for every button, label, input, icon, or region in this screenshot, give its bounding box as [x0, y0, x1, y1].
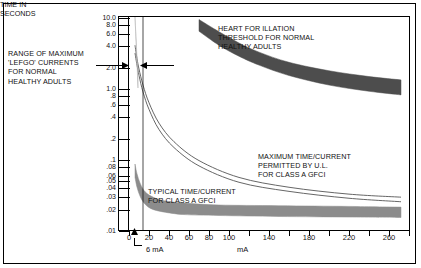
- y-axis-tick-label: .04: [106, 184, 116, 191]
- six-ma-leader-vertical: [134, 238, 135, 245]
- x-axis-tick-label: 220: [343, 233, 356, 242]
- annotation-typical: TYPICAL TIME/CURRENT FOR CLASS A GFCI: [148, 187, 236, 205]
- six-ma-leader-horizontal: [134, 245, 142, 246]
- y-axis-tick-label: .4: [110, 113, 116, 120]
- y-axis-tick-label: .01: [106, 227, 116, 234]
- y-axis-tick-label: 4.0: [106, 42, 116, 49]
- y-axis-tick-label: .2: [110, 134, 116, 141]
- y-axis-tick-label: .8: [110, 91, 116, 98]
- annotation-letgo: RANGE OF MAXIMUM 'LEFGO' CURRENTS FOR NO…: [8, 49, 84, 86]
- letgo-arrow-right-icon: [140, 61, 174, 70]
- x-axis-tick-label: 80: [205, 233, 213, 242]
- x-axis-tick-label: 40: [165, 233, 173, 242]
- six-ma-label: 6 mA: [146, 245, 164, 254]
- y-axis-tick-label: .03: [106, 193, 116, 200]
- y-axis-tick-label: 8.0: [106, 20, 116, 27]
- x-axis-tick-label: 180: [303, 233, 316, 242]
- letgo-arrow-left-icon: [96, 61, 130, 70]
- x-axis-tick-label: 100: [223, 233, 236, 242]
- chart-figure: 10.08.06.04.02.01.0.8.6.4.2.1.08.06.05.0…: [0, 0, 421, 268]
- x-axis-tick-label: 60: [185, 233, 193, 242]
- x-axis-tick-label: 20: [145, 233, 153, 242]
- y-axis-tick-label: .6: [110, 100, 116, 107]
- y-axis-tick-label: 6.0: [106, 29, 116, 36]
- x-axis-title: mA: [237, 245, 248, 254]
- y-axis-tick-label: .02: [106, 205, 116, 212]
- x-axis-tick-label: 140: [263, 233, 276, 242]
- annotation-fibrillation: HEART FOR ILLATION THRESHOLD FOR NORMAL …: [218, 24, 314, 52]
- x-axis-tick-label: 260: [383, 233, 396, 242]
- x-axis-tick-labels: 020406080100140180220260: [128, 233, 410, 245]
- y-axis-tick-label: .08: [106, 162, 116, 169]
- y-axis-tick-labels: 10.08.06.04.02.01.0.8.6.4.2.1.08.06.05.0…: [96, 16, 116, 231]
- annotation-ul-max: MAXIMUM TIME/CURRENT PERMITTED BY U.L. F…: [258, 152, 351, 180]
- chart-band: [135, 17, 138, 88]
- six-ma-marker-icon: [131, 228, 139, 236]
